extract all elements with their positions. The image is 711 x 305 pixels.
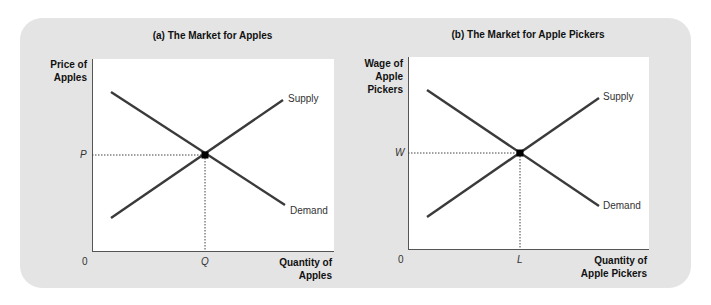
demand-curve — [427, 90, 599, 206]
panel-b-x-axis-label: Quantity of Apple Pickers — [550, 254, 647, 280]
panel-b-labor-tick: L — [517, 254, 523, 265]
panel-b-demand-label: Demand — [603, 200, 641, 211]
equilibrium-point — [517, 150, 524, 157]
panel-b-supply-label: Supply — [603, 91, 634, 102]
panel-b-origin: 0 — [398, 254, 404, 265]
panel-b-wage-tick: W — [395, 147, 404, 158]
supply-curve — [427, 98, 599, 217]
